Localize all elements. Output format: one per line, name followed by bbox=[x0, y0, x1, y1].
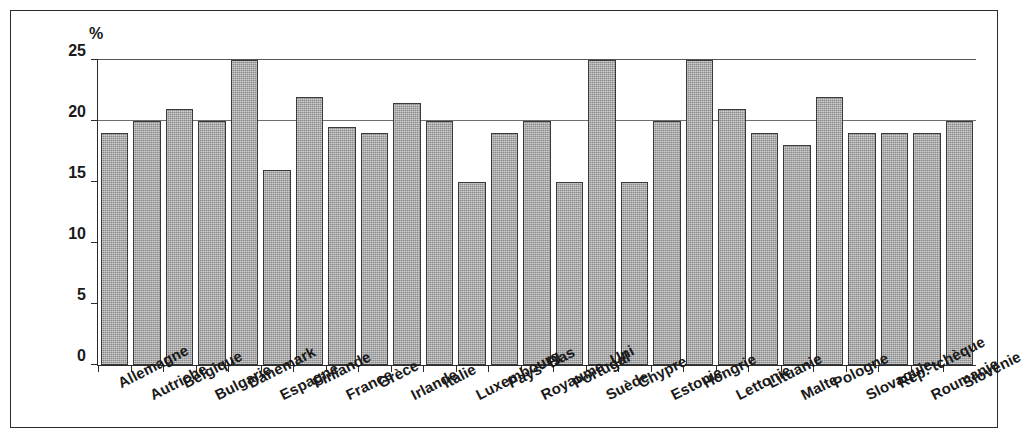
bar[interactable] bbox=[913, 133, 941, 365]
bar-slot bbox=[423, 60, 456, 365]
bar[interactable] bbox=[686, 60, 714, 365]
bar-slot bbox=[813, 60, 846, 365]
bar-slot bbox=[293, 60, 326, 365]
bar-slot bbox=[391, 60, 424, 365]
bar[interactable] bbox=[556, 182, 584, 365]
y-axis-tick-0 bbox=[91, 364, 98, 365]
bar[interactable] bbox=[426, 121, 454, 365]
y-axis-label-15: 15 bbox=[46, 164, 86, 182]
bar[interactable] bbox=[198, 121, 226, 365]
chart-frame: % 0510152025 AllemagneAutricheBelgiqueBu… bbox=[10, 10, 998, 428]
bar-slot bbox=[521, 60, 554, 365]
bar[interactable] bbox=[166, 109, 194, 365]
bar-slot bbox=[196, 60, 229, 365]
bar-slot bbox=[358, 60, 391, 365]
plot-area: 0510152025 bbox=[97, 59, 976, 366]
y-axis-tick-20 bbox=[91, 120, 98, 121]
y-axis-label-5: 5 bbox=[46, 286, 86, 304]
bar[interactable] bbox=[881, 133, 909, 365]
bar[interactable] bbox=[101, 133, 129, 365]
y-axis-tick-15 bbox=[91, 181, 98, 182]
bar-slot bbox=[228, 60, 261, 365]
bar[interactable] bbox=[653, 121, 681, 365]
y-axis-tick-10 bbox=[91, 242, 98, 243]
bar-slot bbox=[878, 60, 911, 365]
x-axis-category-labels: AllemagneAutricheBelgiqueBulgarieDanemar… bbox=[97, 366, 976, 440]
bar-slot bbox=[163, 60, 196, 365]
bar[interactable] bbox=[848, 133, 876, 365]
bar[interactable] bbox=[328, 127, 356, 365]
y-axis-label-0: 0 bbox=[46, 347, 86, 365]
bar-series bbox=[98, 60, 976, 365]
bar[interactable] bbox=[296, 97, 324, 365]
bar-slot bbox=[553, 60, 586, 365]
bar[interactable] bbox=[133, 121, 161, 365]
bar[interactable] bbox=[783, 145, 811, 365]
bar-slot bbox=[748, 60, 781, 365]
y-axis-tick-25 bbox=[91, 59, 98, 60]
bar-slot bbox=[261, 60, 294, 365]
bar-slot bbox=[131, 60, 164, 365]
y-axis-tick-5 bbox=[91, 303, 98, 304]
bar-slot bbox=[781, 60, 814, 365]
y-axis-label-20: 20 bbox=[46, 103, 86, 121]
bar[interactable] bbox=[263, 170, 291, 365]
bar[interactable] bbox=[621, 182, 649, 365]
y-axis-label-10: 10 bbox=[46, 225, 86, 243]
bar-slot bbox=[846, 60, 879, 365]
bar-slot bbox=[488, 60, 521, 365]
bar-slot bbox=[456, 60, 489, 365]
bar-slot bbox=[911, 60, 944, 365]
bar[interactable] bbox=[393, 103, 421, 365]
bar-slot bbox=[586, 60, 619, 365]
bar[interactable] bbox=[491, 133, 519, 365]
bar-slot bbox=[326, 60, 359, 365]
bar-slot bbox=[683, 60, 716, 365]
bar[interactable] bbox=[361, 133, 389, 365]
bar-slot bbox=[618, 60, 651, 365]
bar-slot bbox=[716, 60, 749, 365]
bar[interactable] bbox=[751, 133, 779, 365]
bar-slot bbox=[943, 60, 976, 365]
bar-slot bbox=[651, 60, 684, 365]
y-axis-label-25: 25 bbox=[46, 42, 86, 60]
y-axis-unit-label: % bbox=[89, 25, 104, 43]
bar[interactable] bbox=[946, 121, 974, 365]
bar[interactable] bbox=[458, 182, 486, 365]
bar[interactable] bbox=[718, 109, 746, 365]
bar[interactable] bbox=[523, 121, 551, 365]
bar[interactable] bbox=[231, 60, 259, 365]
bar-slot bbox=[98, 60, 131, 365]
bar[interactable] bbox=[816, 97, 844, 365]
bar[interactable] bbox=[588, 60, 616, 365]
